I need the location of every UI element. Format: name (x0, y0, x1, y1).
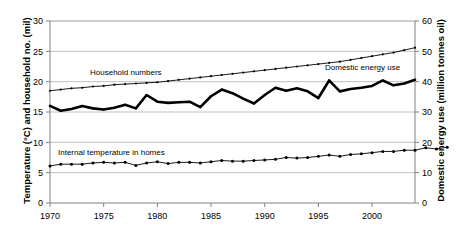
data-point (274, 87, 276, 89)
data-point (274, 158, 277, 161)
data-point (295, 157, 298, 160)
data-point (135, 82, 137, 84)
bottom-tick-label: 1980 (147, 211, 167, 221)
data-point (296, 87, 298, 89)
data-point (210, 75, 212, 77)
data-point (242, 98, 244, 100)
data-point (134, 164, 137, 167)
data-point (242, 71, 244, 73)
data-point (103, 85, 105, 87)
data-point (424, 146, 427, 149)
data-point (317, 97, 319, 99)
data-point (414, 149, 417, 152)
bottom-tick-label: 1995 (308, 211, 328, 221)
data-point (167, 162, 170, 165)
data-point (124, 161, 127, 164)
data-point (81, 163, 84, 166)
data-point (124, 83, 126, 85)
data-point (199, 76, 201, 78)
left-tick-label: 30 (33, 16, 43, 26)
data-point (232, 92, 234, 94)
data-point (274, 68, 276, 70)
data-point (178, 101, 180, 103)
right-tick-label: 40 (422, 77, 432, 87)
data-point (307, 90, 309, 92)
data-point (382, 79, 384, 81)
left-tick-label: 0 (38, 198, 43, 208)
left-tick-label: 15 (33, 107, 43, 117)
left-tick-label: 20 (33, 77, 43, 87)
data-point (392, 150, 395, 153)
data-point (59, 163, 62, 166)
data-point (264, 69, 266, 71)
data-point (253, 103, 255, 105)
left-tick-label: 25 (33, 47, 43, 57)
bottom-tick-label: 1985 (201, 211, 221, 221)
data-point (349, 59, 351, 61)
data-point (252, 159, 255, 162)
data-point (156, 160, 159, 163)
right-tick-label: 60 (422, 16, 432, 26)
right-tick-label: 10 (422, 168, 432, 178)
data-point (307, 64, 309, 66)
data-point (263, 158, 266, 161)
data-point (371, 151, 374, 154)
data-point (70, 87, 72, 89)
data-point (349, 153, 352, 156)
data-point (446, 146, 449, 149)
data-point (156, 101, 158, 103)
data-point (253, 70, 255, 72)
data-point (199, 106, 201, 108)
data-point (296, 65, 298, 67)
data-point (403, 149, 406, 152)
data-point (49, 164, 52, 167)
data-point (328, 79, 330, 81)
data-point (220, 159, 223, 162)
bottom-tick-label: 2000 (362, 211, 382, 221)
chart-canvas: 051015202530 0102030405060 1970197519801… (0, 0, 467, 244)
right-tick-label: 20 (422, 138, 432, 148)
data-point (81, 105, 83, 107)
data-point (49, 90, 51, 92)
data-point (189, 101, 191, 103)
data-point (381, 150, 384, 153)
data-point (350, 88, 352, 90)
data-point (317, 155, 320, 158)
data-point (146, 94, 148, 96)
data-point (177, 161, 180, 164)
data-point (178, 79, 180, 81)
left-tick-label: 10 (33, 138, 43, 148)
data-point (285, 90, 287, 92)
bottom-tick-label: 1975 (94, 211, 114, 221)
data-point (60, 110, 62, 112)
data-point (113, 107, 115, 109)
series-label-household-numbers: Household numbers (90, 68, 162, 77)
data-point (393, 84, 395, 86)
data-point (188, 161, 191, 164)
data-point (103, 109, 105, 111)
data-point (146, 82, 148, 84)
right-axis-title: Domestic energy use (million tonnes oil) (435, 11, 446, 211)
series-label-domestic-energy-use: Domestic energy use (325, 63, 400, 72)
data-point (264, 94, 266, 96)
bottom-tick-label: 1990 (255, 211, 275, 221)
data-point (360, 87, 362, 89)
data-point (338, 155, 341, 158)
data-point (242, 160, 245, 163)
data-point (199, 161, 202, 164)
data-point (360, 152, 363, 155)
data-point (156, 81, 158, 83)
data-point (113, 84, 115, 86)
right-tick-label: 50 (422, 47, 432, 57)
data-point (70, 108, 72, 110)
data-point (167, 102, 169, 104)
data-point (317, 63, 319, 65)
data-point (81, 87, 83, 89)
data-point (414, 79, 416, 81)
data-point (102, 161, 105, 164)
data-point (167, 80, 169, 82)
data-point (328, 154, 331, 157)
series-label-internal-temperature: Internal temperature in homes (58, 148, 165, 157)
data-point (210, 160, 213, 163)
data-point (210, 95, 212, 97)
